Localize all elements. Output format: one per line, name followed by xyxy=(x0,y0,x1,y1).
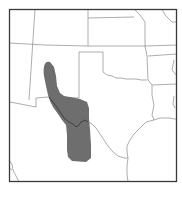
map-canvas xyxy=(0,0,182,197)
map-background xyxy=(0,0,182,197)
range-map xyxy=(0,0,182,197)
